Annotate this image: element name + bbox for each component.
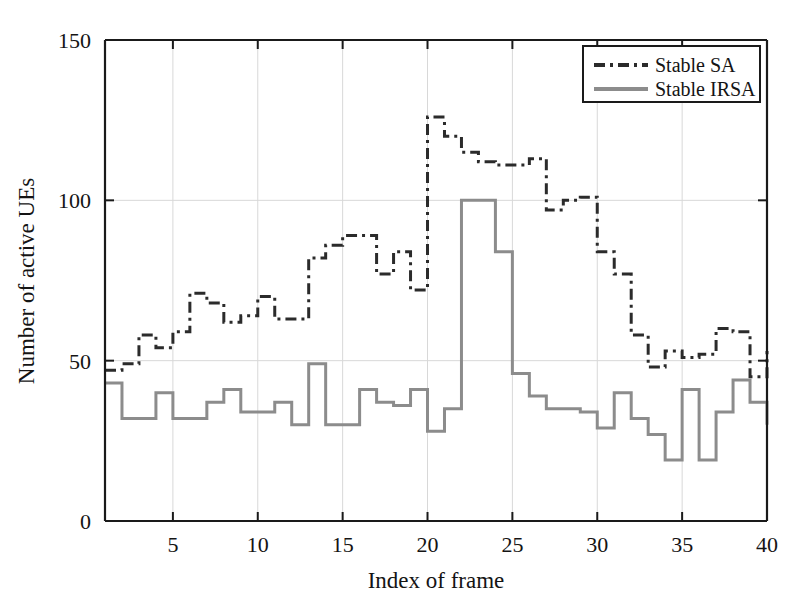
x-tick-label: 40: [756, 532, 778, 557]
y-tick-label: 50: [69, 349, 91, 374]
y-tick-label: 0: [80, 509, 91, 534]
x-tick-label: 35: [671, 532, 693, 557]
x-tick-label: 20: [417, 532, 439, 557]
legend-label-stable-sa: Stable SA: [655, 54, 736, 76]
plot-background: [105, 40, 767, 521]
x-tick-label: 5: [167, 532, 178, 557]
y-axis-label: Number of active UEs: [14, 178, 39, 384]
chart-svg: 510152025303540050100150 Index of frame …: [0, 0, 811, 614]
x-tick-label: 30: [586, 532, 608, 557]
x-axis-label: Index of frame: [368, 568, 505, 593]
y-tick-label: 150: [58, 28, 91, 53]
x-tick-label: 25: [501, 532, 523, 557]
legend-label-stable-irsa: Stable IRSA: [655, 78, 756, 100]
x-tick-label: 10: [247, 532, 269, 557]
y-tick-label: 100: [58, 188, 91, 213]
x-tick-label: 15: [332, 532, 354, 557]
chart-legend: Stable SA Stable IRSA: [583, 46, 760, 102]
chart-figure: 510152025303540050100150 Index of frame …: [0, 0, 811, 614]
